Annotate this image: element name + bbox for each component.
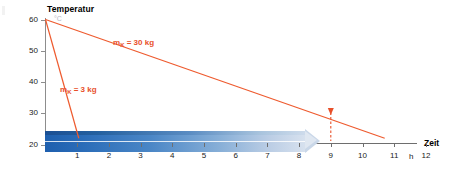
process-bar-arrow-head-inner	[305, 131, 317, 149]
x-tick-mark	[109, 143, 110, 147]
y-tick-label: 20	[22, 141, 38, 149]
series-line-mk-3kg	[46, 20, 79, 139]
y-tick-mark	[41, 82, 45, 83]
x-tick-label: 9	[323, 152, 339, 160]
x-tick-label: 4	[164, 152, 180, 160]
x-tick-label: 1	[69, 152, 85, 160]
x-tick-mark	[331, 143, 332, 147]
series-line-mk-30kg	[46, 20, 385, 139]
x-tick-label: 5	[196, 152, 212, 160]
x-tick-label: 12	[418, 152, 434, 160]
x-tick-label: 2	[101, 152, 117, 160]
series-label-mk-3kg: mK = 3 kg	[60, 85, 97, 94]
x-tick-mark	[426, 143, 427, 147]
x-tick-mark	[172, 143, 173, 147]
y-axis-line	[45, 18, 46, 144]
left-edge-artifact	[2, 6, 5, 15]
x-tick-mark	[267, 143, 268, 147]
x-tick-label: 10	[355, 152, 371, 160]
x-tick-mark	[141, 143, 142, 147]
x-tick-mark	[363, 143, 364, 147]
process-duration-bar	[45, 129, 353, 153]
temperature-time-chart: Temperatur °C Zeit h 6050403020 12345678…	[0, 0, 465, 172]
y-tick-label: 30	[22, 109, 38, 117]
y-tick-label: 60	[22, 16, 38, 24]
y-tick-mark	[41, 20, 45, 21]
x-tick-mark	[236, 143, 237, 147]
x-tick-label: 11	[386, 152, 402, 160]
series-label-mk-30kg: mK = 30 kg	[113, 38, 154, 47]
x-tick-mark	[204, 143, 205, 147]
y-tick-mark	[41, 145, 45, 146]
y-tick-mark	[41, 113, 45, 114]
y-axis-title: Temperatur	[47, 4, 94, 14]
process-bar-highlight-line	[45, 141, 307, 142]
marker-arrowhead-9h	[328, 108, 334, 115]
x-tick-label: 7	[259, 152, 275, 160]
x-tick-label: 3	[133, 152, 149, 160]
x-axis-unit-label: h	[409, 152, 413, 161]
x-tick-mark	[394, 143, 395, 147]
x-tick-mark	[77, 143, 78, 147]
x-tick-mark	[299, 143, 300, 147]
process-bar-top-band	[45, 131, 307, 135]
y-tick-mark	[41, 51, 45, 52]
x-tick-label: 8	[291, 152, 307, 160]
x-tick-label: 6	[228, 152, 244, 160]
y-tick-label: 40	[22, 78, 38, 86]
y-tick-label: 50	[22, 47, 38, 55]
y-axis-unit-label: °C	[54, 15, 62, 22]
